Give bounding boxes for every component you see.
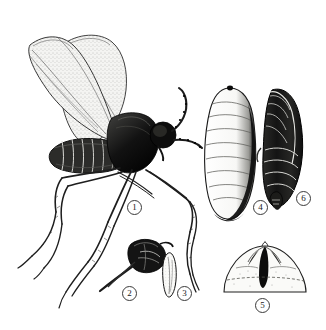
figure-appendage-detail (163, 253, 177, 297)
figure-label-1: 1 (127, 200, 142, 215)
figure-pupa (257, 89, 303, 209)
figure-label-2: 2 (122, 286, 137, 301)
figure-posterior-detail (224, 241, 306, 292)
antennae (172, 88, 202, 148)
figure-label-3: 3 (177, 286, 192, 301)
figure-label-4: 4 (253, 200, 268, 215)
figure-label-6: 6 (296, 191, 311, 206)
leg-bristles (41, 196, 195, 262)
figure-larva (205, 86, 256, 222)
thorax (107, 113, 159, 173)
figure-head-detail (100, 239, 173, 291)
figure-label-5: 5 (255, 298, 270, 313)
plate-artwork (0, 0, 326, 330)
illustration-plate: 1 2 3 4 5 6 (0, 0, 326, 330)
